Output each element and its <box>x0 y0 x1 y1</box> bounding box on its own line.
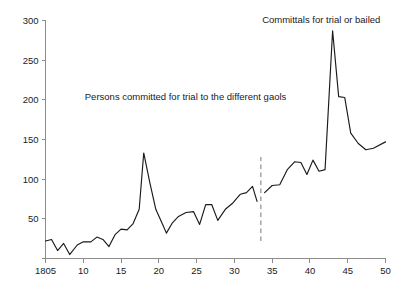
line-chart: 50100150200250300 1805101520253035404550… <box>0 0 400 284</box>
series-line-persons <box>46 153 258 255</box>
x-axis-tick-label: 10 <box>78 265 89 276</box>
x-axis-tick-label: 1805 <box>35 265 56 276</box>
series-label-early: Persons committed for trial to the diffe… <box>85 91 287 102</box>
y-axis-tick-label: 200 <box>23 94 39 105</box>
y-axis-tick-label: 150 <box>23 134 39 145</box>
series-label-late: Committals for trial or bailed <box>262 14 380 25</box>
chart-annotations: Persons committed for trial to the diffe… <box>85 14 381 102</box>
y-axis-tick-label: 300 <box>23 15 39 26</box>
x-axis-tick-label: 15 <box>116 265 127 276</box>
y-axis-tick-label: 50 <box>28 213 39 224</box>
y-axis: 50100150200250300 <box>23 15 46 259</box>
x-axis-tick-label: 50 <box>380 265 391 276</box>
chart-container: 50100150200250300 1805101520253035404550… <box>0 0 400 284</box>
series-line-committals <box>265 31 386 193</box>
y-axis-tick-label: 100 <box>23 174 39 185</box>
y-axis-tick-label: 250 <box>23 55 39 66</box>
x-axis-tick-label: 45 <box>342 265 353 276</box>
series-lines <box>46 31 386 255</box>
x-axis-tick-label: 35 <box>267 265 278 276</box>
x-axis-tick-label: 20 <box>154 265 165 276</box>
x-axis-tick-label: 30 <box>229 265 240 276</box>
x-axis: 1805101520253035404550 <box>35 259 391 276</box>
x-axis-tick-label: 40 <box>305 265 316 276</box>
x-axis-tick-label: 25 <box>191 265 202 276</box>
